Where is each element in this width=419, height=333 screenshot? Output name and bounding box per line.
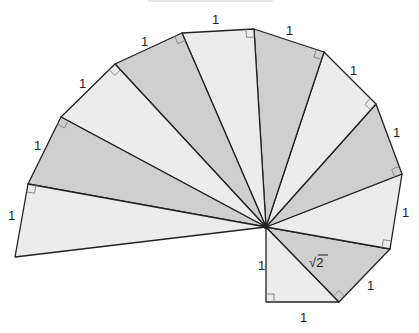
label-edge-11: 1 [8,208,15,223]
label-base: 1 [300,310,307,325]
spiral-diagram: 111111111111√2 [0,0,419,333]
label-edge-7: 1 [212,12,219,27]
label-edge-10: 1 [34,138,41,153]
label-edge-9: 1 [79,76,86,91]
label-edge-6: 1 [286,23,293,38]
center-point [264,225,268,229]
label-edge-3: 1 [402,205,409,220]
label-edge-2: 1 [367,278,374,293]
label-edge-5: 1 [350,63,357,78]
spiral-svg: 111111111111√2 [0,0,419,333]
label-first-leg: 1 [258,258,265,273]
label-sqrt-2: √2 [309,255,323,270]
label-edge-8: 1 [141,34,148,49]
label-edge-4: 1 [393,125,400,140]
